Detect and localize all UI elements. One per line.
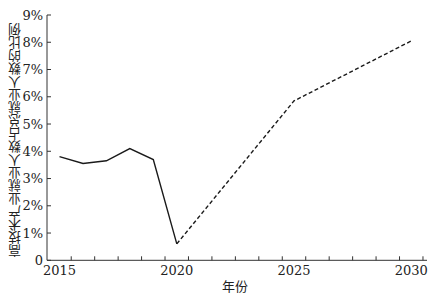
x-tick-label: 2015: [43, 263, 76, 278]
y-axis-label-text: 高技术产业就业人数占总就业人数的比例: [5, 23, 24, 257]
y-tick-label: 5%: [22, 117, 43, 132]
plot-area: 01%2%3%4%5%6%7%8%9%2015202020252030: [0, 0, 436, 300]
historical-series-line: [60, 149, 177, 244]
x-tick-label: 2025: [277, 263, 310, 278]
line-chart: 01%2%3%4%5%6%7%8%9%2015202020252030 高技术产…: [0, 0, 436, 300]
x-axis-label: 年份: [222, 276, 248, 295]
y-tick-label: 7%: [22, 62, 43, 77]
x-tick-label: 2020: [160, 263, 193, 278]
y-tick-label: 2%: [22, 198, 43, 213]
y-tick-label: 4%: [22, 144, 43, 159]
projection-series-line: [177, 41, 411, 244]
x-tick-label: 2030: [395, 263, 428, 278]
y-axis-label: 高技术产业就业人数占总就业人数的比例: [3, 20, 25, 260]
y-tick-label: 6%: [22, 89, 43, 104]
y-tick-label: 8%: [22, 35, 43, 50]
y-tick-label: 3%: [22, 171, 43, 186]
y-tick-label: 9%: [22, 8, 43, 23]
y-tick-label: 0: [35, 253, 43, 268]
y-tick-label: 1%: [22, 226, 43, 241]
